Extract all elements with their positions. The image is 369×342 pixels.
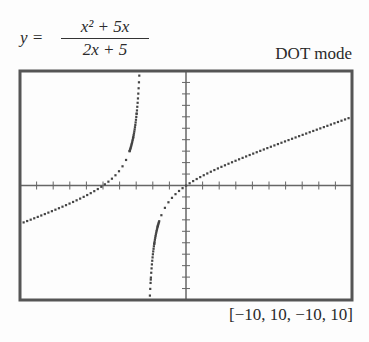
graph-screen — [0, 0, 369, 342]
window-label: [−10, 10, −10, 10] — [229, 305, 353, 325]
